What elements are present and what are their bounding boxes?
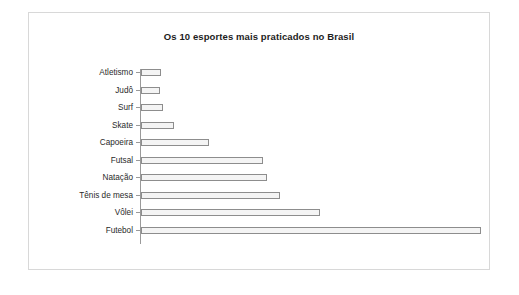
y-axis-tick	[136, 212, 140, 213]
y-axis-tick	[136, 160, 140, 161]
y-axis-tick	[136, 90, 140, 91]
chart-figure-frame: Os 10 esportes mais praticados no Brasil…	[28, 12, 490, 270]
category-label: Judô	[115, 86, 133, 95]
bar-atletismo	[141, 69, 161, 76]
plot-area: Atletismo Judô Surf Skate Capoeira Futsa…	[140, 69, 480, 244]
bar-row: Judô	[140, 87, 480, 105]
category-label: Surf	[118, 103, 133, 112]
bar-surf	[141, 104, 163, 111]
category-label: Natação	[103, 173, 134, 182]
y-axis-tick	[136, 230, 140, 231]
bar-natacao	[141, 174, 267, 181]
bar-futebol	[141, 227, 481, 234]
bar-row: Capoeira	[140, 139, 480, 157]
category-label: Futsal	[111, 156, 133, 165]
y-axis-tick	[136, 125, 140, 126]
category-label: Tênis de mesa	[79, 191, 133, 200]
y-axis-tick	[136, 107, 140, 108]
y-axis-tick	[136, 177, 140, 178]
bar-futsal	[141, 157, 263, 164]
category-label: Skate	[112, 121, 133, 130]
bar-tenis-de-mesa	[141, 192, 280, 199]
bar-row: Vôlei	[140, 209, 480, 227]
category-label: Atletismo	[99, 68, 133, 77]
category-label: Futebol	[106, 226, 133, 235]
bar-skate	[141, 122, 174, 129]
bar-row: Futebol	[140, 227, 480, 245]
y-axis-tick	[136, 142, 140, 143]
category-label: Capoeira	[100, 138, 133, 147]
bar-row: Natação	[140, 174, 480, 192]
bar-row: Futsal	[140, 157, 480, 175]
bar-row: Atletismo	[140, 69, 480, 87]
bar-row: Skate	[140, 122, 480, 140]
bar-row: Surf	[140, 104, 480, 122]
bar-row: Tênis de mesa	[140, 192, 480, 210]
bar-judo	[141, 87, 160, 94]
y-axis-tick	[136, 195, 140, 196]
category-label: Vôlei	[115, 208, 133, 217]
bar-capoeira	[141, 139, 209, 146]
chart-title: Os 10 esportes mais praticados no Brasil	[29, 31, 489, 42]
bar-volei	[141, 209, 320, 216]
y-axis-tick	[136, 72, 140, 73]
